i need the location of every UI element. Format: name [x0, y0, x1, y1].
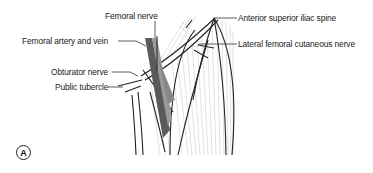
label-femoral-nerve: Femoral nerve — [105, 12, 158, 20]
label-femoral-artery-vein: Femoral artery and vein — [22, 37, 108, 45]
label-asis: Anterior superior iliac spine — [238, 14, 336, 22]
label-obturator-nerve: Obturator nerve — [51, 68, 108, 76]
outline-strokes — [118, 18, 234, 155]
label-lfcn: Lateral femoral cutaneous nerve — [238, 40, 355, 48]
panel-letter-badge: A — [16, 145, 31, 160]
label-pubic-tubercle: Public tubercle — [55, 83, 108, 91]
